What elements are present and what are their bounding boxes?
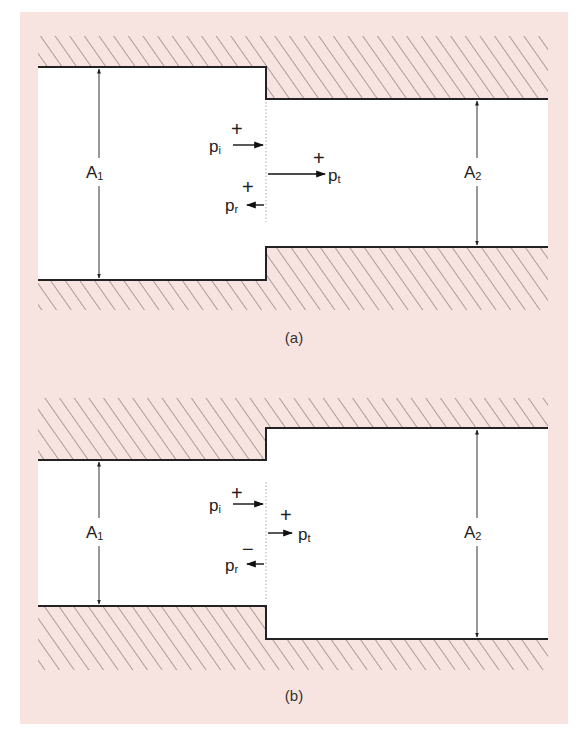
figure-a: A1 A2 + pi + pt + pr (a) [38, 36, 548, 346]
transmitted-sign: + [313, 147, 325, 169]
figure-canvas: A1 A2 + pi + pt + pr (a) [0, 0, 588, 737]
incident-sign: + [231, 482, 243, 504]
figure-b-caption: (b) [285, 687, 303, 704]
incident-sign: + [231, 118, 243, 140]
reflected-sign: + [242, 176, 254, 198]
reflected-sign: − [242, 538, 254, 560]
figure-a-caption: (a) [285, 329, 303, 346]
transmitted-sign: + [280, 504, 292, 526]
figure-b: A1 A2 + pi + pt − pr (b) [38, 398, 548, 704]
